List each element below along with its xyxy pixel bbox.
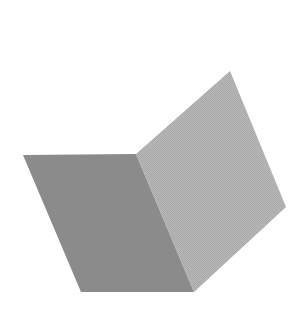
figure-canvas — [0, 0, 301, 334]
folded-planes-diagram — [0, 0, 301, 334]
